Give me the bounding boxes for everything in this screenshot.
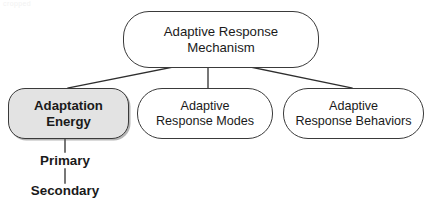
cropped-text-artifact: cropped xyxy=(3,0,31,7)
node-adaptation-energy[interactable]: Adaptation Energy xyxy=(8,88,129,139)
connector-root-to-energy xyxy=(68,67,173,88)
connector-root-to-behaviors xyxy=(250,67,352,88)
leaf-label-secondary[interactable]: Secondary xyxy=(31,183,99,198)
node-adaptive-response-modes[interactable]: Adaptive Response Modes xyxy=(137,88,273,139)
node-adaptive-response-mechanism[interactable]: Adaptive Response Mechanism xyxy=(123,11,319,68)
node-adaptive-response-behaviors[interactable]: Adaptive Response Behaviors xyxy=(283,88,424,139)
leaf-label-primary[interactable]: Primary xyxy=(40,153,90,168)
diagram-canvas: cropped Adaptive Response Mechanism Adap… xyxy=(0,0,431,211)
